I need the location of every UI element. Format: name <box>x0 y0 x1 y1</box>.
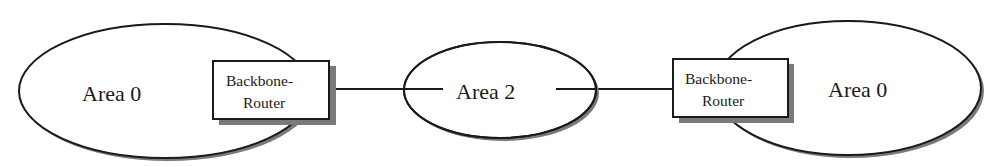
area-left-label: Area 0 <box>82 81 141 106</box>
router-left-label-line1: Backbone- <box>226 72 293 89</box>
router-right: Backbone- Router <box>673 59 794 123</box>
ospf-area-diagram: Area 0 Area 2 Area 0 Backbone- Router Ba… <box>0 0 1006 167</box>
router-left-label-line2: Router <box>243 94 286 111</box>
router-left: Backbone- Router <box>213 61 336 125</box>
area-middle-label: Area 2 <box>456 79 515 104</box>
router-right-label-line1: Backbone- <box>685 70 752 87</box>
area-right-label: Area 0 <box>828 77 887 102</box>
area-middle: Area 2 <box>404 42 599 141</box>
router-right-label-line2: Router <box>702 92 745 109</box>
